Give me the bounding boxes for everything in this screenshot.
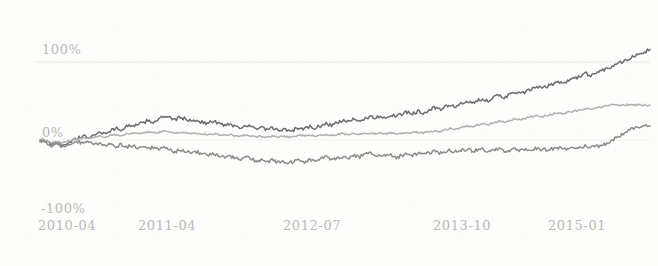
x-tick-label-2010-04: 2010-04 <box>38 218 96 233</box>
line-series-3 <box>40 125 650 164</box>
series-lines <box>40 49 650 164</box>
x-tick-label-2011-04: 2011-04 <box>138 218 196 233</box>
gridlines <box>36 62 650 140</box>
y-tick-label-0: 0% <box>42 125 64 140</box>
line-series-1 <box>40 49 650 146</box>
x-tick-label-2012-07: 2012-07 <box>283 218 341 233</box>
line-chart: 100% 0% -100% 2010-04 2011-04 2012-07 20… <box>0 0 658 266</box>
x-tick-label-2013-10: 2013-10 <box>433 218 491 233</box>
y-tick-label-100: 100% <box>42 42 82 57</box>
x-tick-label-2015-01: 2015-01 <box>548 218 606 233</box>
y-tick-label-neg100: -100% <box>41 201 86 216</box>
line-series-2 <box>40 104 650 143</box>
